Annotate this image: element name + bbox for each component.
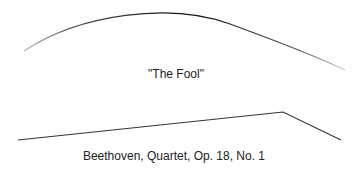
- beethoven-label: Beethoven, Quartet, Op. 18, No. 1: [0, 149, 352, 163]
- contour-diagram: [0, 0, 356, 170]
- beethoven-contour: [18, 112, 341, 140]
- fool-label: "The Fool": [0, 67, 354, 81]
- fool-arch-contour: [24, 13, 345, 70]
